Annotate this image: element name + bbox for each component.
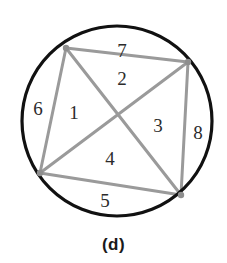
chord-bc-side xyxy=(181,62,188,195)
chord-da-side xyxy=(40,48,66,173)
region-label-5: 5 xyxy=(100,191,110,210)
chord-cd-side xyxy=(40,173,181,195)
vertex-dot-a xyxy=(63,45,69,51)
chord-layer xyxy=(40,48,188,195)
region-label-1: 1 xyxy=(69,103,79,122)
region-label-6: 6 xyxy=(33,99,43,118)
chord-ab-side xyxy=(66,48,188,62)
region-label-4: 4 xyxy=(105,149,115,168)
region-label-2: 2 xyxy=(117,69,127,88)
region-label-8: 8 xyxy=(193,123,203,142)
region-label-7: 7 xyxy=(117,41,127,60)
region-label-3: 3 xyxy=(153,116,163,135)
figure-container: 12345678 (d) xyxy=(0,0,227,263)
vertex-dot-b xyxy=(185,59,191,65)
vertex-dot-d xyxy=(37,170,43,176)
figure-caption: (d) xyxy=(0,235,227,255)
vertex-dot-c xyxy=(178,192,184,198)
